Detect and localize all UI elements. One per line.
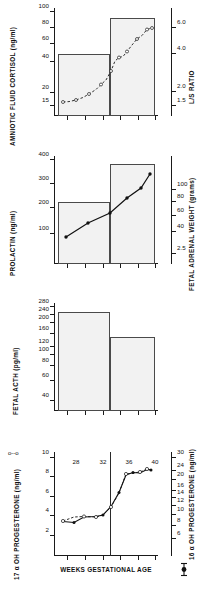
panel3-ytick-label: 200 — [38, 313, 49, 320]
panel1-ytick-label: 80 — [42, 18, 49, 25]
panel2-ytick-label: 300 — [38, 174, 49, 181]
panel-progesterone: 17 α OH PROGESTERONE (ng/ml) o--o 16 α O… — [0, 442, 199, 599]
panel2-ytick-label: 100 — [38, 224, 49, 231]
panel1-ytick-right-label: 1.5 — [177, 96, 186, 103]
panel3-ytick-label: 240 — [38, 305, 49, 312]
panel2-ytick-label: 400 — [38, 150, 49, 157]
panel4-ytick-right-label: 6 — [177, 529, 181, 536]
panel4-ytick-right-label: 14 — [177, 488, 184, 495]
panel4-ytick-label: 10 — [42, 448, 49, 455]
panel3-ytick-label: 100 — [38, 345, 49, 352]
panel4-ytick-label: 2 — [45, 526, 49, 533]
panel1-ytick-right-label: 4.0 — [177, 44, 186, 51]
panel2-ytick-label: 200 — [38, 198, 49, 205]
panel2-ytick-right-label: 100 — [177, 180, 188, 187]
panel2-ytick-right-label: 2.5 — [177, 244, 186, 251]
figure-root: AMNIOTIC FLUID CORTISOL (ng/ml) L/S RATI… — [0, 0, 199, 599]
panel3-ytick-label: 80 — [42, 356, 49, 363]
panel4-ytick-right-label: 10 — [177, 505, 184, 512]
panel2-y-axis-right — [171, 156, 172, 264]
panel1-ytick-label: 60 — [42, 34, 49, 41]
panel3-plot-area: 280 240 200 160 120 100 80 60 40 — [54, 303, 158, 411]
panel1-ytick-label: 40 — [42, 52, 49, 59]
panel4-progesterone-series — [54, 452, 158, 556]
panel2-ylabel-right: FETAL ADRENAL WEIGHT (grams) — [188, 178, 195, 291]
panel4-ytick-label: 6 — [45, 487, 49, 494]
panel-amniotic-cortisol: AMNIOTIC FLUID CORTISOL (ng/ml) L/S RATI… — [0, 0, 199, 150]
panel3-ytick-label: 40 — [42, 391, 49, 398]
panel3-ylabel-left: FETAL ACTH (pg/ml) — [12, 347, 19, 415]
panel2-ylabel-left: PROLACTIN (ng/ml) — [9, 211, 16, 276]
panel1-ylabel-right: L/S RATIO — [188, 70, 195, 104]
panel1-ytick-label: 20 — [42, 83, 49, 90]
bar-acth-late — [110, 337, 155, 411]
panel1-ls-ratio-series — [54, 8, 158, 116]
panel2-ytick-right-label: 80 — [177, 192, 184, 199]
panel4-ytick-right-label: 30 — [177, 448, 184, 455]
panel3-ytick-label: 280 — [38, 297, 49, 304]
panel4-ytick-right-label: 16 — [177, 481, 184, 488]
panel2-adrenal-weight-series — [54, 156, 158, 264]
panel1-ylabel-left: AMNIOTIC FLUID CORTISOL (ng/ml) — [9, 27, 16, 146]
panel4-ytick-right-label: 12 — [177, 496, 184, 503]
panel2-ytick-right-label: 40 — [177, 222, 184, 229]
panel-fetal-acth: FETAL ACTH (pg/ml) 280 240 200 160 120 1… — [0, 295, 199, 443]
panel4-ytick-right-label: 20 — [177, 470, 184, 477]
panel4-ytick-right-label: 24 — [177, 461, 184, 468]
panel4-ylabel-left: 17 α OH PROGESTERONE (ng/ml) — [13, 469, 20, 580]
panel1-ytick-label: 100 — [38, 2, 49, 9]
legend-open-circle-icon: o--o — [8, 450, 19, 456]
panel3-ytick-label: 120 — [38, 337, 49, 344]
panel4-plot-area: 10 8 6 4 2 30 24 20 16 14 12 10 8 — [54, 452, 158, 556]
panel3-y-axis-left — [54, 303, 55, 411]
panel-prolactin: PROLACTIN (ng/ml) FETAL ADRENAL WEIGHT (… — [0, 148, 199, 296]
panel4-ytick-label: 4 — [45, 506, 49, 513]
panel1-ytick-label: 15 — [42, 96, 49, 103]
bar-acth-early — [58, 312, 110, 411]
panel1-ytick-right-label: 2.0 — [177, 82, 186, 89]
panel3-ytick-label: 60 — [42, 371, 49, 378]
x-axis-title: WEEKS GESTATIONAL AGE — [54, 566, 158, 573]
panel1-ytick-right-label: 6.0 — [177, 18, 186, 25]
panel4-ytick-right-label: 8 — [177, 516, 181, 523]
panel4-ytick-label: 8 — [45, 467, 49, 474]
panel4-ylabel-right: 16 α OH PROGESTERONE (ng/ml) — [188, 449, 195, 560]
panel2-plot-area: 400 300 200 100 100 80 60 40 2.5 — [54, 156, 158, 264]
panel1-y-axis-right — [171, 8, 172, 116]
panel2-ytick-right-label: 60 — [177, 206, 184, 213]
panel1-plot-area: 100 80 60 40 20 15 6.0 4.0 2.0 1.5 — [54, 8, 158, 116]
legend-filled-circle-icon — [178, 562, 190, 578]
panel4-y-axis-right — [171, 452, 172, 556]
panel3-ytick-label: 160 — [38, 324, 49, 331]
